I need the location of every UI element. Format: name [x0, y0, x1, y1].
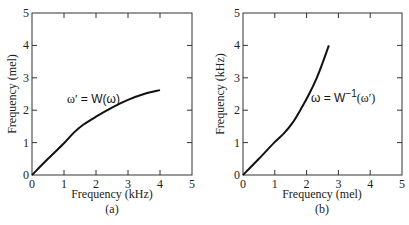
curve-w-inverse: [243, 45, 329, 175]
y-tick-label: 5: [234, 6, 240, 20]
x-tick-label: 0: [240, 177, 246, 191]
y-tick-label: 4: [23, 38, 29, 52]
annotation-a: ω′ = W(ω): [67, 92, 120, 106]
y-tick-label: 2: [234, 103, 240, 117]
panel-a: 012345012345 ω′ = W(ω) Frequency (kHz) (…: [5, 6, 195, 216]
y-tick-label: 0: [234, 168, 240, 182]
y-tick-label: 0: [23, 168, 29, 182]
x-tick-label: 5: [189, 177, 195, 191]
y-axis-title-b: Frequency (kHz): [213, 53, 227, 135]
y-tick-label: 1: [23, 136, 29, 150]
x-tick-label: 4: [367, 177, 373, 191]
panel-caption-a: (a): [105, 202, 118, 216]
x-tick-label: 0: [29, 177, 35, 191]
x-tick-label: 4: [157, 177, 163, 191]
panel-caption-b: (b): [315, 202, 329, 216]
y-tick-label: 2: [23, 103, 29, 117]
y-tick-label: 5: [23, 6, 29, 20]
x-tick-label: 1: [272, 177, 278, 191]
x-axis-title-a: Frequency (kHz): [71, 187, 153, 201]
chart-figure: 012345012345 ω′ = W(ω) Frequency (kHz) (…: [0, 0, 409, 225]
panel-b: 012345012345 ω = W−1(ω′) Frequency (mel)…: [213, 6, 405, 216]
y-tick-label: 3: [23, 71, 29, 85]
x-axis-title-b: Frequency (mel): [282, 187, 362, 201]
y-tick-label: 1: [234, 136, 240, 150]
y-axis-title-a: Frequency (mel): [5, 54, 19, 134]
x-tick-label: 1: [61, 177, 67, 191]
annotation-b: ω = W−1(ω′): [311, 88, 375, 105]
y-tick-label: 3: [234, 71, 240, 85]
y-tick-label: 4: [234, 38, 240, 52]
x-tick-label: 5: [399, 177, 405, 191]
